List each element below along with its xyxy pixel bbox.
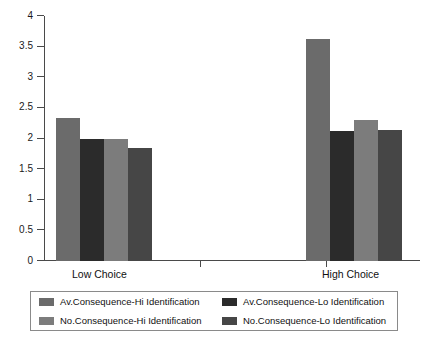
legend-item[interactable]: Av.Consequence-Hi Identification (31, 296, 214, 307)
y-axis-tick-label: 0.5 (19, 225, 33, 235)
y-axis-tick: 3.5 (37, 46, 44, 47)
legend-swatch-icon (222, 317, 237, 325)
y-axis-tick: 4 (37, 15, 44, 16)
legend-grid: Av.Consequence-Hi IdentificationAv.Conse… (31, 292, 397, 330)
y-axis-tick: 0 (37, 260, 44, 261)
y-axis-tick: 1.5 (37, 168, 44, 169)
bar (80, 139, 104, 262)
bar (56, 118, 80, 261)
legend: Av.Consequence-Hi IdentificationAv.Conse… (30, 291, 398, 331)
y-axis-tick: 0.5 (37, 229, 44, 230)
x-axis-tick (326, 261, 327, 267)
y-axis-tick-label: 3.5 (19, 41, 33, 51)
y-axis-tick-label: 1.5 (19, 164, 33, 174)
y-axis-tick-label: 0 (27, 256, 33, 266)
bar (354, 120, 378, 261)
legend-item-label: Av.Consequence-Lo Identification (243, 296, 384, 307)
legend-swatch-icon (39, 298, 54, 306)
category-label: Low Choice (72, 268, 127, 280)
y-axis-tick-label: 3 (27, 72, 33, 82)
plot-area: 00.511.522.533.54 (44, 16, 420, 261)
category-label: High Choice (322, 268, 379, 280)
legend-item[interactable]: No.Consequence-Lo Identification (214, 315, 397, 326)
y-axis-tick-label: 2 (27, 133, 33, 143)
bar (378, 130, 402, 261)
legend-swatch-icon (39, 317, 54, 325)
legend-swatch-icon (222, 298, 237, 306)
legend-item-label: Av.Consequence-Hi Identification (60, 296, 200, 307)
x-axis-tick (200, 261, 201, 267)
legend-item[interactable]: No.Consequence-Hi Identification (31, 315, 214, 326)
legend-item-label: No.Consequence-Hi Identification (60, 315, 202, 326)
bar-chart: 00.511.522.533.54 Low ChoiceHigh Choice … (0, 0, 430, 343)
y-axis-tick-label: 4 (27, 11, 33, 21)
y-axis-tick: 2 (37, 138, 44, 139)
bar (330, 131, 354, 261)
legend-item[interactable]: Av.Consequence-Lo Identification (214, 296, 397, 307)
y-axis-tick: 3 (37, 76, 44, 77)
y-axis-tick: 1 (37, 199, 44, 200)
y-axis-tick-label: 1 (27, 194, 33, 204)
y-axis-tick-label: 2.5 (19, 102, 33, 112)
legend-item-label: No.Consequence-Lo Identification (243, 315, 386, 326)
bar (128, 148, 152, 261)
bar (306, 39, 330, 261)
y-axis-tick: 2.5 (37, 107, 44, 108)
y-axis-line (44, 16, 45, 261)
bar (104, 139, 128, 261)
